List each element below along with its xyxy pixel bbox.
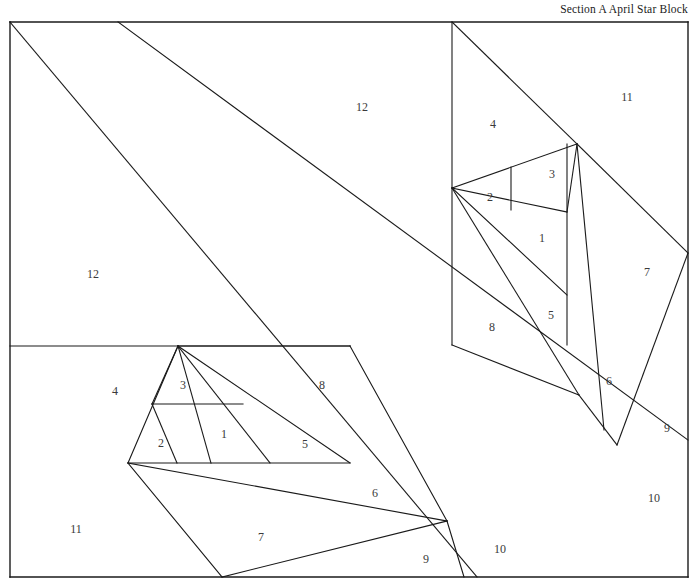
pattern-page: Section A April Star Block 1212114231587… bbox=[0, 0, 700, 584]
label-6-right: 6 bbox=[606, 374, 612, 389]
outer-border bbox=[10, 22, 688, 577]
main-diagonal-lower bbox=[10, 22, 477, 577]
label-12-top: 12 bbox=[356, 100, 368, 115]
label-7-left: 7 bbox=[258, 530, 264, 545]
label-9-right: 9 bbox=[664, 421, 670, 436]
r-seam-3 bbox=[567, 144, 577, 212]
l-seam-3 bbox=[152, 346, 178, 404]
l-seam-9b bbox=[222, 521, 447, 577]
l-seam-10 bbox=[447, 521, 464, 577]
label-6-left: 6 bbox=[372, 486, 378, 501]
label-5-right: 5 bbox=[548, 308, 554, 323]
l-seam-7 bbox=[128, 463, 447, 521]
main-diagonal-upper bbox=[118, 22, 688, 440]
star-section-upper-right bbox=[452, 22, 688, 445]
label-11-left: 11 bbox=[70, 522, 82, 537]
l-seam-2 bbox=[152, 404, 177, 463]
r-edge-2-top bbox=[452, 144, 577, 188]
r-seam-6 bbox=[577, 144, 604, 430]
label-8-left: 8 bbox=[319, 378, 325, 393]
r-seam-8 bbox=[452, 188, 579, 395]
label-7-right: 7 bbox=[644, 265, 650, 280]
label-11-right: 11 bbox=[621, 90, 633, 105]
r-base-6 bbox=[579, 395, 617, 445]
label-5-left: 5 bbox=[302, 437, 308, 452]
label-1-left: 1 bbox=[221, 427, 227, 442]
r-hypotenuse-4 bbox=[452, 22, 577, 144]
label-3-left: 3 bbox=[180, 378, 186, 393]
label-4-right: 4 bbox=[490, 117, 496, 132]
r-seam-9 bbox=[617, 253, 688, 445]
background-diagonals bbox=[10, 22, 688, 577]
r-base-left bbox=[452, 345, 579, 395]
label-4-left: 4 bbox=[112, 384, 118, 399]
l-seam-6 bbox=[350, 346, 447, 521]
label-8-right: 8 bbox=[489, 320, 495, 335]
label-9-left: 9 bbox=[423, 552, 429, 567]
label-2-right: 2 bbox=[487, 190, 493, 205]
r-seam-1 bbox=[452, 188, 567, 212]
pattern-drawing bbox=[0, 0, 700, 584]
l-seam-9a bbox=[128, 463, 222, 577]
label-12-left: 12 bbox=[87, 267, 99, 282]
label-1-right: 1 bbox=[539, 231, 545, 246]
label-3-right: 3 bbox=[549, 167, 555, 182]
label-10-left: 10 bbox=[494, 542, 506, 557]
label-2-left: 2 bbox=[158, 436, 164, 451]
label-10-right: 10 bbox=[648, 491, 660, 506]
star-section-lower-left bbox=[10, 346, 464, 577]
r-seam-7 bbox=[577, 144, 688, 253]
